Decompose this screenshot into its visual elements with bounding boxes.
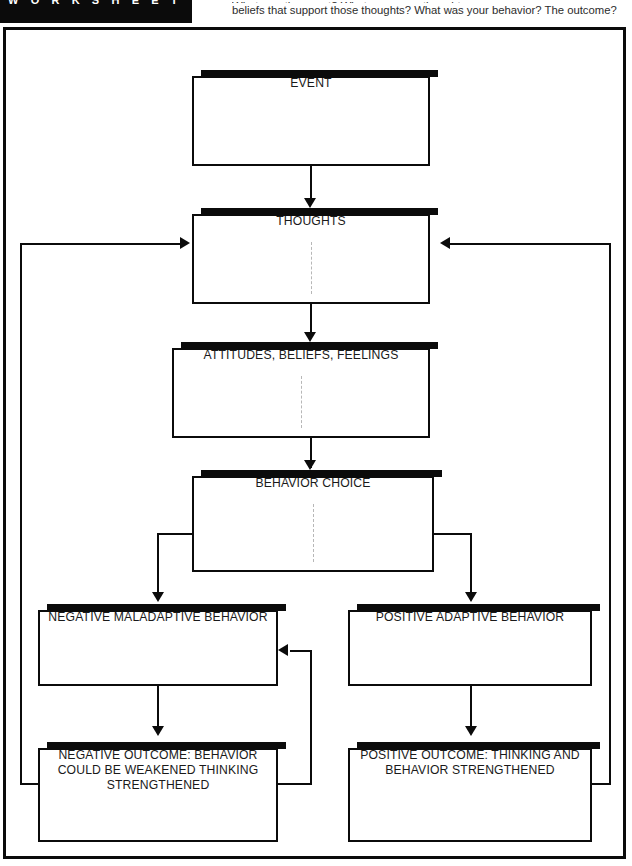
node-thoughts[interactable]: THOUGHTS (192, 208, 430, 304)
edge-negout-thoughts-h-top (20, 243, 183, 245)
node-negative-behavior-label: NEGATIVE MALADAPTIVE BEHAVIOR (42, 610, 274, 625)
arrowhead-down (465, 592, 477, 602)
node-positive-behavior-label: POSITIVE ADAPTIVE BEHAVIOR (352, 610, 588, 625)
edge-negout-negbeh-h-bottom (278, 783, 312, 785)
edge-posout-thoughts-v (609, 243, 611, 785)
edge-posout-thoughts-h-top (450, 243, 611, 245)
worksheet-page: W O R K S H E E T 7 What was the event? … (0, 0, 632, 866)
node-positive-outcome[interactable]: POSITIVE OUTCOME: THINKING AND BEHAVIOR … (348, 742, 592, 842)
node-attitudes-label: ATTITUDES, BELIEFS, FEELINGS (176, 348, 426, 363)
arrowhead-down (304, 198, 316, 208)
edge-event-thoughts (310, 166, 312, 202)
node-thoughts-label: THOUGHTS (196, 214, 426, 229)
edge-choice-posbeh-v (470, 533, 472, 599)
arrowhead-down (465, 726, 477, 736)
edge-negout-negbeh-v (310, 650, 312, 785)
node-event-label: EVENT (196, 76, 426, 91)
node-attitudes[interactable]: ATTITUDES, BELIEFS, FEELINGS (172, 342, 430, 438)
arrowhead-down (304, 460, 316, 470)
arrowhead-down (152, 726, 164, 736)
node-behavior-choice-label: BEHAVIOR CHOICE (196, 476, 430, 491)
node-positive-outcome-label: POSITIVE OUTCOME: THINKING AND BEHAVIOR … (352, 748, 588, 778)
node-behavior-choice[interactable]: BEHAVIOR CHOICE (192, 470, 434, 572)
worksheet-instructions: What was the event? What were your thoug… (232, 0, 628, 18)
node-dashed-divider (311, 242, 312, 294)
arrowhead-right (180, 237, 190, 249)
node-dashed-divider (301, 376, 302, 428)
edge-choice-posbeh-h (432, 533, 472, 535)
edge-choice-negbeh-h (157, 533, 194, 535)
arrowhead-left (440, 237, 450, 249)
arrowhead-down (152, 592, 164, 602)
edge-negout-negbeh-h-top (290, 650, 312, 652)
node-event[interactable]: EVENT (192, 70, 430, 166)
node-positive-behavior[interactable]: POSITIVE ADAPTIVE BEHAVIOR (348, 604, 592, 686)
worksheet-number-label: W O R K S H E E T 7 (8, 0, 186, 6)
worksheet-header-bar: W O R K S H E E T 7 (0, 0, 192, 23)
arrowhead-left (278, 644, 288, 656)
edge-negout-thoughts-h-bottom (20, 783, 40, 785)
edge-choice-negbeh-v (157, 533, 159, 599)
node-negative-outcome-label: NEGATIVE OUTCOME: BEHAVIOR COULD BE WEAK… (42, 748, 274, 793)
arrowhead-down (304, 332, 316, 342)
instruction-line: beliefs that support those thoughts? Wha… (232, 4, 617, 16)
node-dashed-divider (313, 504, 314, 562)
instruction-clipped-line: What was the event? What were your thoug… (232, 0, 628, 3)
node-negative-behavior[interactable]: NEGATIVE MALADAPTIVE BEHAVIOR (38, 604, 278, 686)
node-negative-outcome[interactable]: NEGATIVE OUTCOME: BEHAVIOR COULD BE WEAK… (38, 742, 278, 842)
edge-negout-thoughts-v (20, 243, 22, 785)
